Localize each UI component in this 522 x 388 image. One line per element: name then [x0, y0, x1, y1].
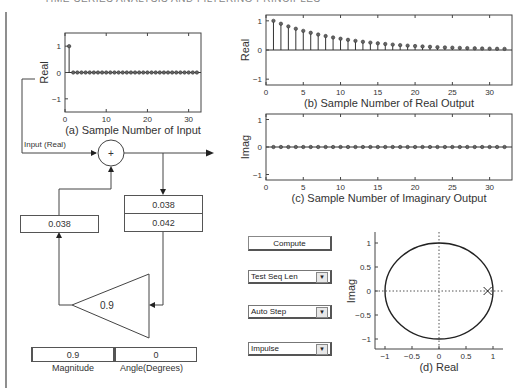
feedback-wire	[59, 168, 111, 215]
stem-marker	[294, 145, 297, 148]
stem-marker	[451, 145, 454, 148]
y-axis-label: Imag	[239, 135, 251, 159]
y-tick-label: 0	[258, 46, 263, 55]
stem-marker	[398, 43, 401, 46]
angle-input[interactable]: 0	[114, 347, 197, 362]
stem-marker	[458, 145, 461, 148]
stem-marker	[170, 71, 173, 74]
y-tick-label: −1	[253, 171, 263, 180]
canvas: 10−10102030Real(a) Sample Number of Inpu…	[0, 0, 522, 388]
x-tick-label: 30	[485, 183, 494, 192]
stem-marker	[287, 145, 290, 148]
stem-marker	[436, 45, 439, 48]
stem-marker	[324, 145, 327, 148]
input-label: Input (Real)	[24, 140, 66, 149]
stem-marker	[361, 145, 364, 148]
x-tick-label: −0.5	[404, 352, 420, 361]
stem-marker	[354, 145, 357, 148]
stem-marker	[92, 71, 95, 74]
arrow-icon	[206, 150, 214, 157]
chevron-down-icon[interactable]: ▼	[316, 307, 328, 318]
stem-marker	[76, 71, 79, 74]
stem-marker	[121, 71, 124, 74]
stem-marker	[369, 41, 372, 44]
stem-marker	[369, 145, 372, 148]
test-seq-len-dropdown[interactable]: Test Seq Len ▼	[248, 270, 332, 284]
stem-marker	[361, 40, 364, 43]
arrow-icon	[149, 302, 155, 308]
y-tick-label: −0.5	[355, 311, 371, 320]
y-tick-label: 0	[258, 143, 263, 152]
stem-marker	[154, 71, 157, 74]
stem-marker	[162, 71, 165, 74]
x-tick-label: 5	[301, 88, 306, 97]
stem-marker	[129, 71, 132, 74]
stem-marker	[179, 71, 182, 74]
stem-marker	[146, 71, 149, 74]
y-axis-label: Real	[239, 39, 251, 62]
stem-marker	[451, 46, 454, 49]
stem-marker	[466, 145, 469, 148]
stem-marker	[495, 145, 498, 148]
arrow-icon	[91, 150, 97, 156]
x-tick-label: 0	[264, 183, 269, 192]
stem-marker	[279, 145, 282, 148]
filter-demo-window: TIME-SERIES ANALYSIS AND FILTERING PRINC…	[0, 0, 522, 388]
stem-marker	[117, 71, 120, 74]
x-tick-label: 5	[301, 183, 306, 192]
stem-marker	[473, 47, 476, 50]
stem-marker	[302, 29, 305, 32]
signal-type-dropdown[interactable]: Impulse ▼	[248, 342, 332, 356]
stem-marker	[339, 145, 342, 148]
output-value-bottom-box: 0.042	[124, 213, 203, 232]
stem-marker	[406, 44, 409, 47]
stem-marker	[316, 33, 319, 36]
x-tick-label: 25	[448, 88, 457, 97]
y-tick-label: −1	[52, 95, 62, 104]
stem-marker	[376, 145, 379, 148]
dropdown-value: Test Seq Len	[251, 272, 298, 281]
stem-marker	[183, 71, 186, 74]
stem-marker	[391, 43, 394, 46]
auto-step-dropdown[interactable]: Auto Step ▼	[248, 305, 332, 319]
stem-marker	[142, 71, 145, 74]
stem-marker	[187, 71, 190, 74]
stem-marker	[279, 22, 282, 25]
stem-marker	[428, 145, 431, 148]
stem-marker	[443, 145, 446, 148]
y-tick-label: 0	[57, 69, 62, 78]
stem-marker	[413, 145, 416, 148]
stem-marker	[125, 71, 128, 74]
chevron-down-icon[interactable]: ▼	[316, 272, 328, 283]
magnitude-input[interactable]: 0.9	[31, 347, 114, 362]
dropdown-value: Auto Step	[251, 307, 286, 316]
y-tick-label: 1	[258, 17, 263, 26]
signal-wires	[22, 79, 210, 305]
stem-marker	[287, 25, 290, 28]
stem-marker	[473, 145, 476, 148]
stem-marker	[158, 71, 161, 74]
y-tick-label: 1	[258, 116, 263, 125]
y-tick-label: 0	[367, 287, 372, 296]
dropdown-value: Impulse	[251, 344, 279, 353]
output-value-top-box: 0.038	[124, 195, 203, 214]
arrow-icon	[108, 166, 114, 172]
stem-marker	[175, 71, 178, 74]
x-tick-label: 0	[264, 88, 269, 97]
stem-marker	[272, 145, 275, 148]
x-tick-label: 25	[448, 183, 457, 192]
stem-marker	[428, 45, 431, 48]
feedback-delay-box: 0.038	[20, 215, 99, 233]
stem-marker	[309, 31, 312, 34]
plot-caption: (d) Real	[419, 361, 458, 373]
pole-zero-plot: 10.50−0.5−1−1−0.500.51Imag(d) Real	[345, 232, 503, 373]
y-axis-label: Real	[38, 61, 50, 84]
x-tick-label: 10	[336, 88, 345, 97]
stem-marker	[488, 145, 491, 148]
stem-marker	[354, 39, 357, 42]
stem-marker	[391, 145, 394, 148]
compute-button[interactable]: Compute	[248, 236, 332, 251]
chevron-down-icon[interactable]: ▼	[316, 344, 328, 355]
stem-marker	[166, 71, 169, 74]
stem-marker	[384, 145, 387, 148]
